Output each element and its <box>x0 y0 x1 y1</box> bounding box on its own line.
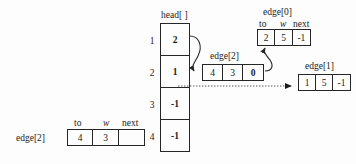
edge2-bottomleft-record: 4 3 <box>67 129 145 146</box>
arrow-head1-to-edge2 <box>190 36 200 71</box>
head-row-label-1: 1 <box>146 36 158 46</box>
linked-list-adjacency-diagram: head[ ] 2 1 -1 -1 1 2 3 4 edge[0] to w n… <box>0 0 356 164</box>
edge2-bottomleft-to-value: 4 <box>68 130 93 145</box>
edge1-label: edge[1] <box>305 62 334 72</box>
head-cell-3: -1 <box>161 88 189 120</box>
edge0-w-value: 5 <box>275 30 292 45</box>
edge1-next-value: -1 <box>333 75 350 90</box>
edge0-next-value: -1 <box>293 30 310 45</box>
edge2-bottomleft-header-to: to <box>74 119 81 129</box>
head-row-label-4: 4 <box>146 132 158 142</box>
head-row-label-2: 2 <box>146 68 158 78</box>
edge2-bottomleft-label: edge[2] <box>16 134 45 144</box>
edge2-middle-label: edge[2] <box>210 52 239 62</box>
head-array: 2 1 -1 -1 <box>160 23 190 152</box>
head-cell-2: 1 <box>161 56 189 88</box>
head-row-label-3: 3 <box>146 100 158 110</box>
edge0-record: 2 5 -1 <box>257 29 311 46</box>
edge0-to-value: 2 <box>258 30 275 45</box>
edge2-bottomleft-w-value: 3 <box>93 130 118 145</box>
edge2-middle-next-value: 0 <box>243 65 263 80</box>
head-array-label: head[ ] <box>161 11 188 21</box>
edge2-bottomleft-header-next: next <box>122 119 138 129</box>
edge2-middle-record: 4 3 0 <box>202 64 264 81</box>
edge1-w-value: 5 <box>316 75 333 90</box>
edge1-to-value: 1 <box>299 75 316 90</box>
edge2-middle-w-value: 3 <box>223 65 243 80</box>
edge2-bottomleft-next-value <box>119 130 144 145</box>
edge1-record: 1 5 -1 <box>298 74 351 91</box>
edge0-label: edge[0] <box>263 8 292 18</box>
arrow-edge2-next-to-edge0 <box>264 48 272 71</box>
edge2-bottomleft-header-w: w <box>103 119 109 129</box>
head-cell-4: -1 <box>161 120 189 151</box>
edge2-middle-to-value: 4 <box>203 65 223 80</box>
head-cell-1: 2 <box>161 24 189 56</box>
